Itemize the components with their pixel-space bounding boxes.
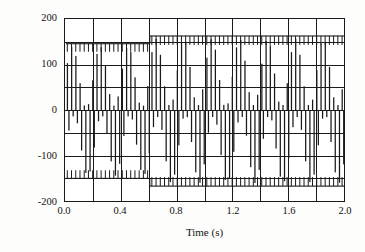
x-tick-label: 1.2 xyxy=(213,205,253,216)
horizontal-gridline xyxy=(65,110,344,111)
horizontal-gridline xyxy=(65,178,344,179)
x-tick-label: 2.0 xyxy=(325,205,365,216)
x-tick-label: 1.6 xyxy=(269,205,309,216)
x-tick-label: 0.0 xyxy=(44,205,84,216)
horizontal-gridline xyxy=(65,65,344,66)
horizontal-gridline xyxy=(65,42,344,43)
x-tick-label: 0.4 xyxy=(100,205,140,216)
horizontal-gridline xyxy=(65,156,344,157)
plot-area xyxy=(64,18,345,202)
x-axis-title: Time (s) xyxy=(64,226,345,238)
x-tick-label: 0.8 xyxy=(156,205,196,216)
horizontal-gridline xyxy=(65,133,344,134)
horizontal-gridline xyxy=(65,87,344,88)
chart-figure: Terminal voltage (V) 200 100 0 -100 -200… xyxy=(0,0,365,252)
